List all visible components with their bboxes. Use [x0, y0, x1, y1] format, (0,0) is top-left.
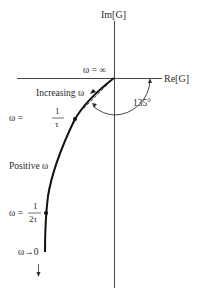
angle-label: 135° — [133, 98, 151, 108]
omega-half-tau-numerator: 1 — [33, 201, 38, 211]
increasing-omega-label: Increasing ω — [36, 88, 84, 98]
omega-half-tau-denominator: 2τ — [29, 214, 38, 224]
arc-arrow-end-icon — [92, 103, 97, 108]
omega-to-zero-label: ω→0 — [18, 247, 39, 257]
polar-curve — [45, 78, 114, 252]
polar-plot-diagram: Im[G] Re[G] ω = ∞ 135° Increasing ω ω = … — [0, 0, 198, 288]
positive-omega-label: Positive ω — [9, 161, 48, 171]
omega-1-tau-numerator: 1 — [55, 106, 60, 116]
imag-axis-label: Im[G] — [101, 9, 126, 20]
omega-infinity-label: ω = ∞ — [83, 65, 106, 75]
omega-1-tau-point — [73, 117, 77, 121]
omega-1-tau-lhs: ω = — [9, 113, 23, 123]
dashed-asymptote — [84, 78, 114, 108]
omega-half-tau-point — [44, 211, 48, 215]
down-arrow-icon — [37, 272, 41, 277]
omega-half-tau-lhs: ω = — [9, 208, 23, 218]
omega-1-tau-denominator: τ — [55, 119, 59, 129]
real-axis-label: Re[G] — [164, 73, 189, 84]
